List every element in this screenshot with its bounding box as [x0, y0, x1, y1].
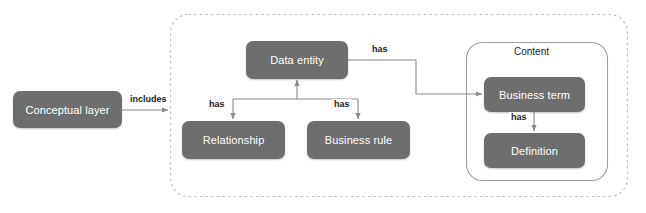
diagram-canvas: Conceptual layer Data entity Relationshi… [0, 0, 646, 213]
content-group-label: Content [511, 46, 552, 57]
edge-label-has-business-rule: has [332, 99, 352, 109]
node-relationship[interactable]: Relationship [182, 121, 285, 159]
node-data-entity-label: Data entity [270, 54, 324, 66]
node-business-term-label: Business term [499, 89, 570, 101]
node-business-term[interactable]: Business term [484, 77, 585, 112]
edge-label-includes: includes [128, 94, 169, 104]
edge-label-has-business-term: has [370, 44, 390, 54]
node-business-rule-label: Business rule [325, 134, 392, 146]
edge-label-has-definition: has [509, 112, 529, 122]
node-definition[interactable]: Definition [484, 133, 585, 168]
node-relationship-label: Relationship [203, 134, 265, 146]
node-definition-label: Definition [511, 145, 558, 157]
edge-label-has-relationship: has [207, 99, 227, 109]
node-business-rule[interactable]: Business rule [307, 121, 410, 159]
node-conceptual-layer[interactable]: Conceptual layer [13, 91, 122, 128]
node-conceptual-layer-label: Conceptual layer [25, 104, 109, 116]
node-data-entity[interactable]: Data entity [246, 41, 348, 79]
edge-has-business-term [348, 60, 482, 94]
